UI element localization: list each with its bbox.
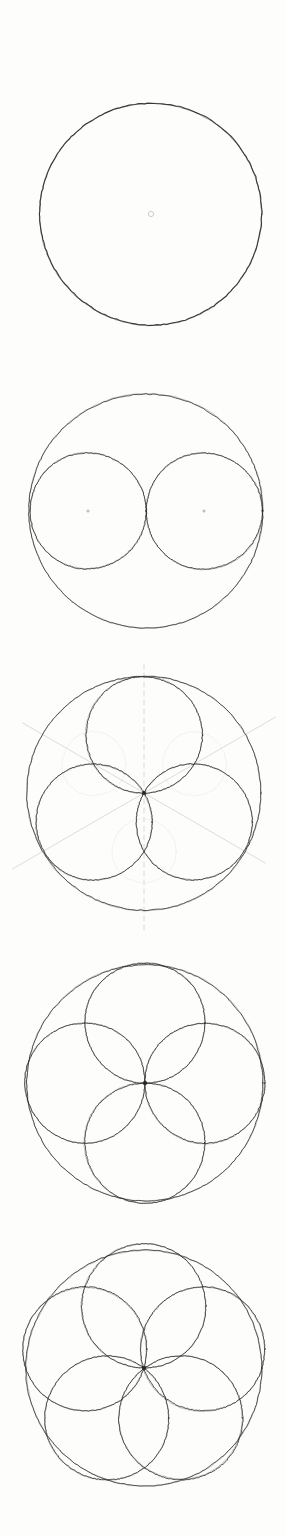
geometry-canvas	[0, 0, 285, 1536]
panel-5-inner-circle-0	[81, 1244, 206, 1368]
panel-3-construction-ray-1	[12, 793, 144, 869]
panel-1-center-pin-mark	[148, 211, 153, 216]
panel-3-construction-ray-0	[144, 717, 276, 793]
panel-5-inner-circle-4-secondary	[23, 1287, 147, 1411]
panel-3-convergence-node	[142, 791, 146, 795]
panel-4-inner-circle-0	[85, 963, 206, 1083]
panel-3-construction-ray-3	[144, 793, 265, 863]
panel-1-outer-circle	[39, 103, 262, 325]
panel-4-convergence-node	[143, 1081, 147, 1085]
panel-5-inner-circle-4	[23, 1286, 147, 1411]
panel-2-inner-center-dot-1	[203, 510, 206, 513]
drawing-sheet	[0, 0, 285, 1536]
panel-4-inner-circle-1-secondary	[145, 1023, 265, 1144]
panel-1-outer-circle-secondary	[39, 103, 261, 325]
panel-5-convergence-node	[142, 1366, 146, 1370]
panel-4-inner-circle-3-secondary	[25, 1023, 145, 1144]
panel-2-inner-center-dot-0	[87, 510, 90, 513]
